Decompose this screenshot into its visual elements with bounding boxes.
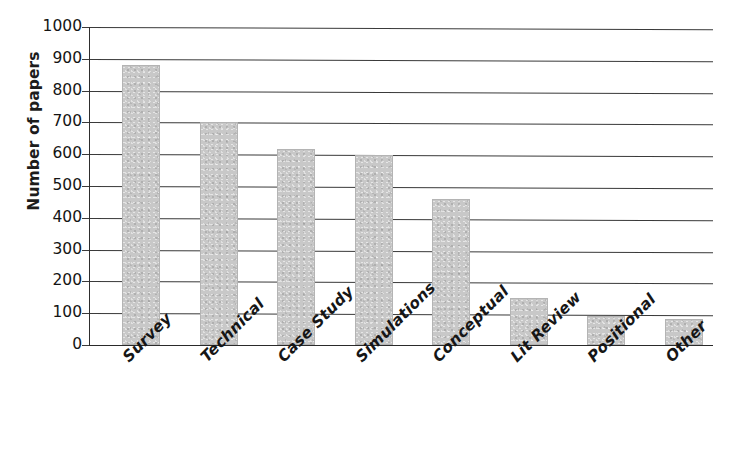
gridline: [89, 281, 713, 284]
gridline: [89, 59, 713, 62]
y-tick-mark: [82, 59, 89, 60]
gridline: [89, 154, 713, 157]
y-tick-label: 300: [36, 242, 82, 258]
bar: [200, 122, 238, 345]
gridline: [89, 91, 713, 94]
y-tick-mark: [82, 281, 89, 282]
bar-chart-figure: Number of papers 01002003004005006007008…: [0, 0, 738, 459]
gridline: [89, 218, 713, 221]
bar: [277, 149, 315, 345]
y-tick-mark: [82, 27, 89, 28]
y-tick-mark: [82, 313, 89, 314]
y-tick-label: 500: [36, 178, 82, 194]
y-tick-label: 800: [36, 83, 82, 99]
y-tick-mark: [82, 91, 89, 92]
x-axis-category-labels: SurveyTechnicalCase StudySimulationsConc…: [89, 347, 713, 459]
y-axis-tick-labels: 01002003004005006007008009001000: [34, 0, 82, 459]
gridline: [89, 250, 713, 253]
gridline: [89, 27, 713, 30]
y-tick-mark: [82, 122, 89, 123]
y-tick-label: 700: [36, 114, 82, 130]
y-tick-mark: [82, 154, 89, 155]
y-tick-mark: [82, 250, 89, 251]
y-tick-label: 1000: [36, 19, 82, 35]
bar: [122, 65, 160, 345]
y-tick-label: 400: [36, 210, 82, 226]
y-tick-label: 200: [36, 273, 82, 289]
gridline: [89, 186, 713, 189]
plot-area: [89, 27, 713, 345]
y-tick-label: 0: [36, 337, 82, 353]
x-axis-line: [89, 345, 713, 346]
y-tick-mark: [82, 186, 89, 187]
y-tick-label: 900: [36, 51, 82, 67]
gridline: [89, 122, 713, 125]
y-tick-mark: [82, 345, 89, 346]
y-tick-mark: [82, 218, 89, 219]
y-axis-line: [89, 27, 90, 345]
y-tick-label: 600: [36, 146, 82, 162]
y-tick-label: 100: [36, 305, 82, 321]
